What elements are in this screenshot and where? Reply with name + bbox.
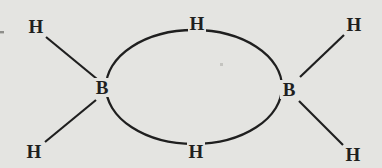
atom-hydrogen-bridge-top: H: [190, 13, 205, 34]
scan-artifact-speck: [220, 63, 223, 66]
atom-hydrogen-bridge-bottom: H: [189, 141, 204, 162]
atom-hydrogen-bottom-right: H: [346, 144, 361, 165]
atom-hydrogen-bottom-left: H: [27, 141, 42, 162]
atom-boron-right: B: [283, 79, 296, 100]
atom-hydrogen-top-left: H: [29, 16, 44, 37]
diagram-canvas: H H H H H H B B: [0, 0, 382, 168]
atom-boron-left: B: [96, 77, 109, 98]
atom-hydrogen-top-right: H: [347, 14, 362, 35]
scan-artifact-left-edge: [0, 31, 4, 33]
diborane-structure-diagram: H H H H H H B B: [0, 0, 382, 168]
